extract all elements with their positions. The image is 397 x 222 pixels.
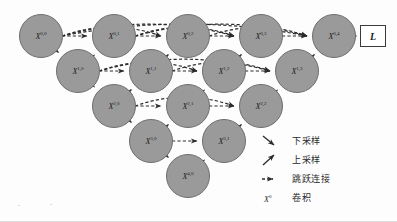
legend-item-skip: 跳跃连接 <box>258 169 394 188</box>
conv-node-x20: X2,0 <box>92 84 136 128</box>
conv-node-label: X1,3 <box>291 66 302 76</box>
legend-item-conv: X0 卷积 <box>258 188 394 207</box>
scan-speck <box>18 205 20 206</box>
upsample-arrow <box>241 55 242 56</box>
conv-symbol: X0 <box>258 195 271 204</box>
conv-node-icon: X0 <box>258 188 292 207</box>
conv-node-x00: X0,0 <box>19 14 63 58</box>
scan-speck <box>50 204 52 205</box>
legend-label-skip: 跳跃连接 <box>292 172 330 185</box>
conv-node-label: X0,3 <box>255 31 266 41</box>
conv-node-x01: X0,1 <box>92 14 136 58</box>
conv-node-label: X0,1 <box>108 31 119 41</box>
arrow-up-right-icon <box>258 150 292 169</box>
upsample-arrow <box>168 55 169 56</box>
conv-node-label: X2,1 <box>182 101 193 111</box>
arrow-down-right-icon <box>258 131 292 150</box>
conv-node-label: X0,4 <box>328 31 339 41</box>
conv-node-x04: X0,4 <box>312 14 356 58</box>
conv-node-label: X0,0 <box>35 31 46 41</box>
figure-canvas: X0,0X0,1X0,2X0,3X0,4X1,0X1,1X1,2X1,3X2,0… <box>0 0 397 222</box>
upsample-arrow <box>168 125 169 126</box>
conv-node-x31: X3,1 <box>202 119 246 163</box>
legend-item-downsample: 下采样 <box>258 131 394 150</box>
upsample-arrow <box>241 125 242 126</box>
loss-box: L <box>360 25 386 47</box>
conv-node-x11: X1,1 <box>129 49 173 93</box>
conv-node-x12: X1,2 <box>202 49 246 93</box>
downsample-arrow <box>131 122 132 123</box>
conv-node-label: X1,0 <box>72 66 83 76</box>
conv-node-label: X0,2 <box>182 31 193 41</box>
upsample-arrow <box>314 55 315 56</box>
downsample-arrow <box>168 157 169 158</box>
dashed-arrow-icon <box>258 169 292 188</box>
conv-node-x10: X1,0 <box>56 49 100 93</box>
conv-node-label: X2,2 <box>255 101 266 111</box>
legend-label-conv: 卷积 <box>292 191 311 204</box>
conv-node-x03: X0,3 <box>239 14 283 58</box>
conv-node-label: X3,1 <box>218 136 229 146</box>
legend-item-upsample: 上采样 <box>258 150 394 169</box>
conv-node-x13: X1,3 <box>275 49 319 93</box>
conv-node-label: X1,1 <box>145 66 156 76</box>
conv-node-x02: X0,2 <box>166 14 210 58</box>
conv-node-x40: X4,0 <box>166 154 210 198</box>
figure-bottom-rule <box>0 221 397 222</box>
conv-node-label: X2,0 <box>108 101 119 111</box>
conv-node-label: X3,0 <box>145 136 156 146</box>
downsample-arrow <box>58 52 59 53</box>
loss-label: L <box>370 31 376 42</box>
legend: 下采样 上采样 跳跃连接 X0 卷积 <box>258 131 394 207</box>
conv-node-label: X4,0 <box>182 171 193 181</box>
legend-label-upsample: 上采样 <box>292 153 321 166</box>
conv-node-label: X1,2 <box>218 66 229 76</box>
conv-node-x22: X2,2 <box>239 84 283 128</box>
legend-label-downsample: 下采样 <box>292 134 321 147</box>
upsample-arrow <box>131 90 132 91</box>
conv-node-x21: X2,1 <box>166 84 210 128</box>
conv-node-x30: X3,0 <box>129 119 173 163</box>
